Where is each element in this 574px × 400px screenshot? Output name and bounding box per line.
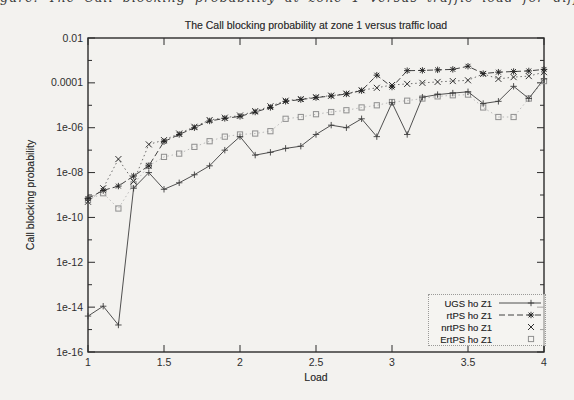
legend: UGS ho Z1rtPS ho Z1nrtPS ho Z1ErtPS ho Z… — [428, 294, 546, 346]
x-tick-label: 2.5 — [309, 356, 324, 368]
x-tick-label: 1 — [85, 356, 91, 368]
x-tick-label: 1.5 — [157, 356, 172, 368]
scanned-figure-page: gure: The Call blocking probability at z… — [0, 0, 574, 400]
x-axis-label: Load — [88, 371, 544, 383]
legend-item: UGS ho Z1 — [431, 297, 543, 309]
legend-label: nrtPS ho Z1 — [431, 322, 497, 333]
x-tick-label: 3 — [389, 356, 395, 368]
x-tick-label: 2 — [237, 356, 243, 368]
y-tick-label: 1e-08 — [56, 166, 83, 178]
legend-item: rtPS ho Z1 — [431, 309, 543, 321]
y-tick-label: 0.01 — [63, 32, 84, 44]
y-tick-label: 1e-12 — [56, 256, 83, 268]
asterisk-marker-icon — [497, 309, 543, 321]
y-tick-label: 1e-10 — [56, 211, 83, 223]
plus-marker-icon — [497, 297, 543, 309]
y-tick-label: 1e-14 — [56, 301, 83, 313]
y-tick-label: 1e-16 — [56, 346, 83, 358]
legend-label: ErtPS ho Z1 — [431, 334, 497, 345]
legend-item: ErtPS ho Z1 — [431, 333, 543, 345]
x-tick-label: 4 — [541, 356, 547, 368]
y-tick-label: 1e-06 — [56, 121, 83, 133]
legend-item: nrtPS ho Z1 — [431, 321, 543, 333]
legend-rows: UGS ho Z1rtPS ho Z1nrtPS ho Z1ErtPS ho Z… — [431, 297, 543, 345]
series-line — [88, 79, 544, 325]
legend-label: rtPS ho Z1 — [431, 310, 497, 321]
y-axis-label: Call blocking probability — [24, 115, 36, 275]
square-marker-icon — [497, 333, 543, 345]
x-tick-label: 3.5 — [461, 356, 476, 368]
y-tick-label: 0.0001 — [51, 76, 83, 88]
legend-label: UGS ho Z1 — [431, 298, 497, 309]
cross-marker-icon — [497, 321, 543, 333]
